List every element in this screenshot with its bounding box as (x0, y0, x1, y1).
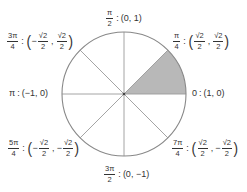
label-3pi-over-4: 3π 4 : ( − √2 2 , √2 2 ) (6, 32, 74, 50)
y-numerator: √2 (63, 139, 73, 149)
close-paren: ) (233, 140, 238, 157)
coordinate: (0, 1) (121, 14, 142, 23)
angle-fraction: π 2 (106, 9, 113, 27)
label-pi-over-2: π 2 : (0, 1) (105, 9, 142, 27)
angle-numerator: 7π (172, 139, 183, 149)
label-zero: 0 : (1, 0) (192, 89, 225, 98)
y-numerator: √2 (213, 32, 223, 42)
x-numerator: √2 (194, 32, 204, 42)
angle-fraction: 3π 2 (104, 165, 115, 183)
separator: : (21, 37, 24, 46)
y-denominator: 2 (66, 149, 70, 158)
comma: , (51, 37, 54, 46)
angle-denominator: 4 (175, 42, 179, 51)
angle-denominator: 4 (176, 149, 180, 158)
x-fraction: √2 2 (194, 32, 204, 50)
separator: : (118, 170, 121, 179)
x-numerator: √2 (39, 139, 49, 149)
y-numerator: √2 (222, 139, 232, 149)
angle: 0 (192, 89, 197, 98)
angle-numerator: π (173, 32, 180, 42)
angle-numerator: π (106, 9, 113, 19)
shaded-sector (124, 50, 186, 94)
separator: : (199, 89, 202, 98)
label-pi-over-4: π 4 : ( √2 2 , √2 2 ) (172, 32, 230, 50)
y-sign: − (57, 144, 62, 153)
x-sign: − (33, 144, 38, 153)
close-paren: ) (75, 140, 80, 157)
open-paren: ( (188, 33, 193, 50)
x-denominator: 2 (201, 149, 205, 158)
close-paren: ) (225, 33, 230, 50)
angle-denominator: 2 (108, 19, 112, 28)
angle-denominator: 2 (108, 175, 112, 184)
close-paren: ) (68, 33, 73, 50)
x-fraction: √2 2 (39, 139, 49, 157)
coordinate: (1, 0) (204, 89, 225, 98)
open-paren: ( (191, 140, 196, 157)
separator: : (17, 89, 20, 98)
y-numerator: √2 (57, 32, 67, 42)
label-7pi-over-4: 7π 4 : ( √2 2 , − √2 2 ) (171, 139, 239, 157)
x-sign: − (32, 37, 37, 46)
x-fraction: √2 2 (198, 139, 208, 157)
separator: : (116, 14, 119, 23)
x-fraction: √2 2 (38, 32, 48, 50)
angle-fraction: 5π 4 (8, 139, 19, 157)
x-numerator: √2 (38, 32, 48, 42)
y-denominator: 2 (60, 42, 64, 51)
angle: π (9, 89, 15, 98)
x-numerator: √2 (198, 139, 208, 149)
x-denominator: 2 (41, 42, 45, 51)
open-paren: ( (27, 140, 32, 157)
angle-fraction: 3π 4 (7, 32, 18, 50)
comma: , (208, 37, 211, 46)
y-fraction: √2 2 (222, 139, 232, 157)
angle-denominator: 4 (12, 149, 16, 158)
angle-fraction: 7π 4 (172, 139, 183, 157)
label-pi: π : (−1, 0) (9, 89, 48, 98)
origin-dot (123, 93, 126, 96)
angle-numerator: 3π (7, 32, 18, 42)
angle-fraction: π 4 (173, 32, 180, 50)
label-3pi-over-2: 3π 2 : (0, −1) (103, 165, 149, 183)
comma: , (52, 144, 55, 153)
y-denominator: 2 (216, 42, 220, 51)
x-denominator: 2 (42, 149, 46, 158)
y-fraction: √2 2 (57, 32, 67, 50)
angle-numerator: 3π (104, 165, 115, 175)
separator: : (186, 144, 189, 153)
angle-numerator: 5π (8, 139, 19, 149)
separator: : (22, 144, 25, 153)
coordinate: (−1, 0) (22, 89, 48, 98)
y-fraction: √2 2 (213, 32, 223, 50)
y-fraction: √2 2 (63, 139, 73, 157)
y-denominator: 2 (225, 149, 229, 158)
angle-denominator: 4 (11, 42, 15, 51)
coordinate: (0, −1) (123, 170, 149, 179)
y-sign: − (215, 144, 220, 153)
label-5pi-over-4: 5π 4 : ( − √2 2 , − √2 2 ) (7, 139, 80, 157)
comma: , (211, 144, 214, 153)
open-paren: ( (26, 33, 31, 50)
separator: : (183, 37, 186, 46)
x-denominator: 2 (197, 42, 201, 51)
